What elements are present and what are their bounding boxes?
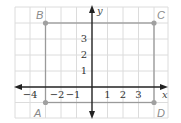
point-c xyxy=(151,20,156,25)
x-tick-label: 1 xyxy=(104,89,110,100)
point-a xyxy=(43,100,48,105)
point-a-label: A xyxy=(33,107,41,119)
x-tick-label: −4 xyxy=(23,89,38,100)
point-d-label: D xyxy=(157,107,165,119)
y-axis-label: y xyxy=(96,5,103,16)
point-d xyxy=(151,100,156,105)
coordinate-plane: y x −4 −2 −1 1 2 3 1 2 3 A B C D xyxy=(0,0,181,123)
x-tick-label: 2 xyxy=(120,89,126,100)
point-b-label: B xyxy=(36,9,43,21)
x-tick-label: 3 xyxy=(135,89,141,100)
x-tick-label: −1 xyxy=(66,89,81,100)
y-tick-label: 1 xyxy=(81,65,87,76)
y-tick-label: 3 xyxy=(81,33,87,44)
point-c-label: C xyxy=(157,9,165,21)
point-b xyxy=(43,20,48,25)
x-axis-label: x xyxy=(162,89,168,100)
y-axis-up-arrow-icon xyxy=(89,5,95,13)
y-tick-label: 2 xyxy=(81,49,87,60)
x-tick-label: −2 xyxy=(50,89,65,100)
